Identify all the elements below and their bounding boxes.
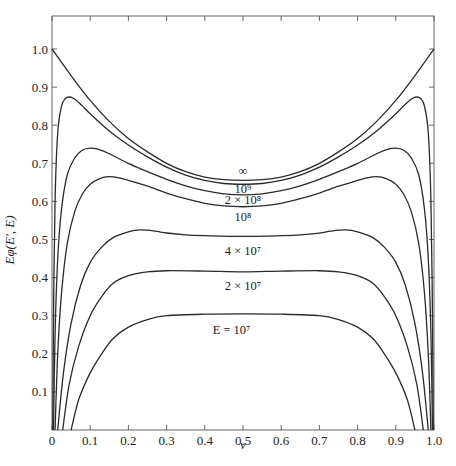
x-tick-label: 0.1 (82, 433, 98, 448)
curve-label-10-7: E = 10⁷ (213, 323, 251, 337)
y-tick-label: 0.1 (32, 384, 48, 399)
y-tick-label: 0.8 (32, 118, 48, 133)
curve-labels: ∞10⁹2 × 10⁸10⁸4 × 10⁷2 × 10⁷E = 10⁷ (213, 164, 262, 336)
y-tick-label: 1.0 (32, 42, 48, 57)
curve-10-9 (53, 97, 433, 430)
x-axis-label: v (240, 437, 246, 452)
x-tick-label: 0.2 (120, 433, 136, 448)
y-axis-ticks: 0.10.20.30.40.50.60.70.80.91.0 (32, 42, 434, 400)
y-tick-label: 0.9 (32, 80, 48, 95)
curve-- (52, 49, 434, 180)
chart: 00.10.20.30.40.50.60.70.80.91.0 0.10.20.… (0, 0, 456, 466)
curve-label-4x10-7: 4 × 10⁷ (225, 244, 261, 258)
curve-2x10-7 (63, 271, 424, 430)
curve-label-2x10-8: 2 × 10⁸ (225, 193, 261, 207)
x-tick-label: 0.9 (388, 433, 404, 448)
y-tick-label: 0.2 (32, 346, 48, 361)
y-tick-label: 0.3 (32, 308, 48, 323)
y-tick-label: 0.7 (32, 156, 49, 171)
y-tick-label: 0.4 (32, 270, 49, 285)
x-tick-label: 1.0 (426, 433, 442, 448)
curves (52, 49, 434, 430)
x-axis-ticks: 00.10.20.30.40.50.60.70.80.91.0 (49, 16, 442, 448)
curve-label-2x10-7: 2 × 10⁷ (225, 279, 261, 293)
y-tick-label: 0.6 (32, 194, 49, 209)
x-tick-label: 0.3 (158, 433, 174, 448)
x-tick-label: 0.8 (349, 433, 365, 448)
x-tick-label: 0.7 (311, 433, 328, 448)
x-tick-label: 0 (49, 433, 56, 448)
curve-label--: ∞ (239, 164, 248, 178)
x-tick-label: 0.6 (273, 433, 290, 448)
curve-label-10-8: 10⁸ (235, 210, 252, 224)
x-tick-label: 0.4 (197, 433, 214, 448)
y-axis-label: Eφ(E′, E) (2, 215, 17, 265)
y-tick-label: 0.5 (32, 232, 48, 247)
